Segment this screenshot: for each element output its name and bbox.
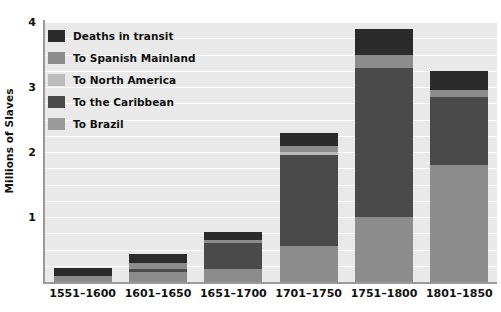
bar-segment — [355, 29, 413, 55]
x-axis-tick-label: 1701–1750 — [275, 287, 342, 300]
bar-segment — [430, 90, 488, 97]
y-axis-title-label: Millions of Slaves — [3, 88, 15, 193]
legend-item-label: To North America — [73, 74, 176, 86]
legend-swatch-icon — [48, 96, 65, 108]
stacked-bar-chart: Millions of Slaves 1234 Deaths in transi… — [0, 0, 501, 312]
bar-segment — [204, 240, 262, 243]
legend-item-label: Deaths in transit — [73, 30, 174, 42]
x-axis-tick-label: 1751–1800 — [351, 287, 418, 300]
x-axis-tick-labels: 1551–16001601–16501651–17001701–17501751… — [45, 287, 497, 309]
bar-segment — [355, 68, 413, 218]
bar-segment — [204, 232, 262, 240]
x-axis-line — [43, 282, 497, 284]
bar-segment — [355, 217, 413, 282]
legend-item[interactable]: Deaths in transit — [48, 26, 258, 45]
y-axis-tick-label: 1 — [28, 211, 36, 224]
x-axis-tick-label: 1601–1650 — [125, 287, 192, 300]
bar-segment — [204, 243, 262, 269]
legend-item[interactable]: To the Caribbean — [48, 92, 258, 111]
bar[interactable] — [355, 29, 413, 283]
bar[interactable] — [129, 254, 187, 282]
bar-segment — [280, 155, 338, 246]
bar-segment — [129, 272, 187, 282]
bar-segment — [430, 71, 488, 91]
bar-segment — [430, 97, 488, 165]
y-axis-title: Millions of Slaves — [0, 0, 18, 282]
chart-legend: Deaths in transitTo Spanish MainlandTo N… — [48, 26, 258, 136]
bar-segment — [280, 133, 338, 146]
bar[interactable] — [280, 133, 338, 283]
legend-item[interactable]: To Spanish Mainland — [48, 48, 258, 67]
x-axis-tick-label: 1551–1600 — [49, 287, 116, 300]
legend-item-label: To Brazil — [73, 118, 124, 130]
legend-item[interactable]: To North America — [48, 70, 258, 89]
legend-item[interactable]: To Brazil — [48, 114, 258, 133]
bar-segment — [129, 254, 187, 262]
legend-swatch-icon — [48, 52, 65, 64]
x-axis-tick-label: 1801–1850 — [426, 287, 493, 300]
legend-swatch-icon — [48, 30, 65, 42]
legend-swatch-icon — [48, 74, 65, 86]
bar[interactable] — [204, 232, 262, 282]
legend-item-label: To the Caribbean — [73, 96, 174, 108]
y-axis-tick-label: 2 — [28, 146, 36, 159]
legend-swatch-icon — [48, 118, 65, 130]
bar-segment — [204, 269, 262, 282]
bar[interactable] — [54, 268, 112, 282]
bar[interactable] — [430, 71, 488, 282]
bar-segment — [430, 165, 488, 282]
bar-segment — [129, 269, 187, 272]
bar-segment — [129, 263, 187, 270]
y-axis-tick-label: 4 — [28, 16, 36, 29]
y-axis-tick-label: 3 — [28, 81, 36, 94]
bar-segment — [280, 246, 338, 282]
bar-segment — [54, 268, 112, 276]
bar-segment — [280, 152, 338, 155]
bar-segment — [280, 146, 338, 153]
x-axis-tick-label: 1651–1700 — [200, 287, 267, 300]
y-axis-tick-labels: 1234 — [18, 0, 40, 290]
bar-segment — [355, 55, 413, 68]
legend-item-label: To Spanish Mainland — [73, 52, 196, 64]
